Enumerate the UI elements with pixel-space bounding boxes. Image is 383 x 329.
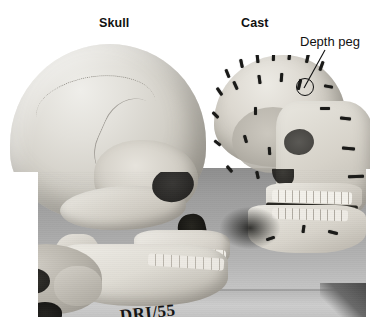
bottom-margin: [0, 317, 383, 329]
depth-peg-callout-circle: [296, 78, 314, 96]
forensic-comparison-figure: DRI/55: [0, 0, 383, 329]
depth-peg: [255, 171, 260, 179]
depth-peg: [254, 107, 257, 115]
left-margin: [0, 168, 38, 329]
depth-peg: [224, 69, 230, 78]
depth-peg: [280, 73, 284, 82]
cast-above-photo-edge: [210, 55, 370, 169]
depth-peg: [348, 175, 364, 179]
depth-peg: [239, 59, 244, 68]
depth-peg: [320, 107, 330, 110]
depth-peg: [226, 165, 233, 169]
depth-peg: [272, 55, 275, 61]
depth-peg-label: Depth peg: [300, 34, 360, 49]
skull-label: Skull: [99, 16, 129, 30]
partial-skull-cheek: [54, 266, 102, 306]
depth-peg: [268, 147, 272, 155]
cast-shadow: [220, 207, 280, 249]
depth-peg: [255, 55, 259, 63]
skull-above-photo-edge: [2, 44, 234, 172]
cast-label: Cast: [241, 16, 269, 30]
